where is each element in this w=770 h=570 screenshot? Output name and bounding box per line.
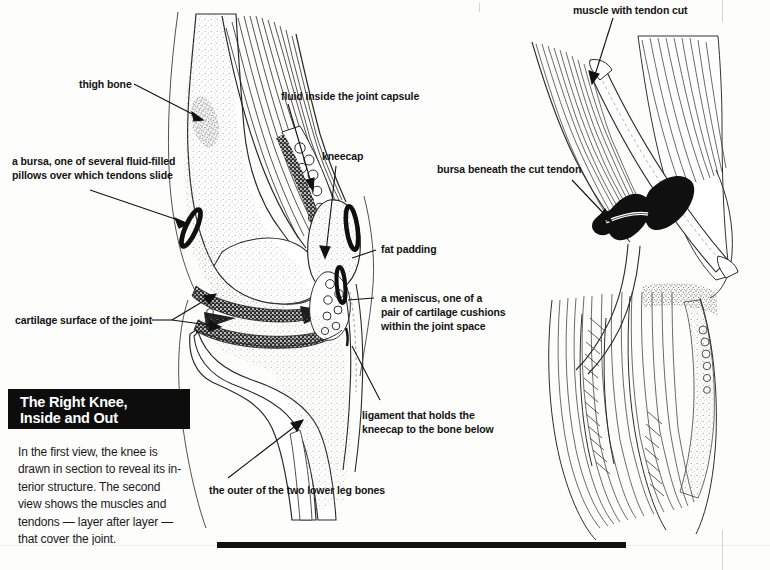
label-meniscus-line1: a meniscus, one of a [381,292,482,306]
crop-mark-right-bottom [722,530,723,570]
label-ligament-line1: ligament that holds the [362,409,475,423]
caption-text: In the first view, the knee is drawn in … [18,444,194,548]
label-bursa-line1: a bursa, one of several fluid-filled [12,155,175,169]
label-bursa-cut-tendon: bursa beneath the cut tendon [437,163,581,177]
caption-line-5: tendons — layer after layer — [18,514,194,531]
caption-line-4: view shows the muscles and [18,496,194,513]
label-meniscus-line3: within the joint space [381,320,486,334]
label-meniscus-line2: pair of cartilage cushions [381,306,506,320]
crop-mark-top-center [479,3,480,12]
title-line-1: The Right Knee, [20,394,127,410]
title-line-2: Inside and Out [20,410,118,426]
caption-line-1: In the first view, the knee is [18,444,194,461]
caption-line-2: drawn in section to reveal its in- [18,461,194,478]
label-thigh-bone: thigh bone [79,78,132,92]
label-kneecap: kneecap [322,150,363,164]
label-lower-leg-bone: the outer of the two lower leg bones [209,484,385,498]
hatched-muscle-band [580,314,614,474]
label-fat-padding: fat padding [381,243,436,257]
caption-line-3: terior structure. The second [18,479,194,496]
tibial-bone-area-right [642,283,718,498]
label-muscle-tendon-cut: muscle with tendon cut [573,4,687,18]
crop-mark-right-top [722,0,723,22]
bursa-beneath-cut-tendon [592,176,694,240]
label-fluid-joint-capsule: fluid inside the joint capsule [281,90,419,104]
illustration-page: thigh bone a bursa, one of several fluid… [0,0,770,570]
bottom-rule [217,542,626,548]
label-cartilage-surface: cartilage surface of the joint [15,314,152,328]
calf-muscles [558,292,694,528]
label-bursa-line2: pillows over which tendons slide [12,169,173,183]
label-ligament-line2: kneecap to the bone below [362,423,494,437]
title-block: The Right Knee, Inside and Out [8,389,190,429]
